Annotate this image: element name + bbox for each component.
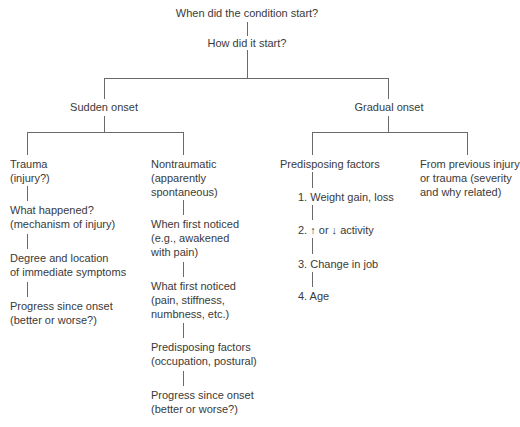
onset-question: How did it start? bbox=[208, 36, 287, 50]
step-text: of immediate symptoms bbox=[10, 266, 126, 278]
trauma-label: Trauma bbox=[10, 158, 48, 170]
step-text: (mechanism of injury) bbox=[10, 218, 115, 230]
nontraumatic-sublabel: spontaneous) bbox=[151, 186, 218, 198]
step-text: or trauma (severity bbox=[420, 172, 512, 184]
step-text: Predisposing factors bbox=[151, 341, 251, 353]
step-text: What happened? bbox=[10, 204, 94, 216]
root-question: When did the condition start? bbox=[176, 6, 318, 20]
nontraumatic-step-progress: Progress since onset (better or worse?) bbox=[151, 388, 254, 416]
step-text: From previous injury bbox=[420, 158, 520, 170]
step-text: Progress since onset bbox=[151, 389, 254, 401]
predisposing-item-job: 3. Change in job bbox=[298, 257, 378, 271]
predisposing-factors-node: Predisposing factors bbox=[280, 157, 380, 171]
step-text: (better or worse?) bbox=[151, 403, 238, 415]
step-text: with pain) bbox=[151, 246, 198, 258]
step-text: numbness, etc.) bbox=[151, 308, 229, 320]
step-text: Progress since onset bbox=[10, 300, 113, 312]
nontraumatic-sublabel: (apparently bbox=[151, 172, 206, 184]
predisposing-item-weight: 1. Weight gain, loss bbox=[298, 190, 394, 204]
gradual-onset-node: Gradual onset bbox=[354, 100, 423, 114]
step-text: (e.g., awakened bbox=[151, 232, 229, 244]
step-text: What first noticed bbox=[151, 280, 236, 292]
previous-injury-node: From previous injury or trauma (severity… bbox=[420, 157, 520, 199]
step-text: Degree and location bbox=[10, 252, 108, 264]
trauma-node: Trauma (injury?) bbox=[10, 157, 50, 185]
predisposing-item-age: 4. Age bbox=[298, 289, 329, 303]
nontraumatic-step-what-noticed: What first noticed (pain, stiffness, num… bbox=[151, 279, 236, 321]
trauma-step-degree-location: Degree and location of immediate symptom… bbox=[10, 251, 126, 279]
step-text: and why related) bbox=[420, 186, 501, 198]
sudden-onset-node: Sudden onset bbox=[70, 100, 138, 114]
step-text: (pain, stiffness, bbox=[151, 294, 225, 306]
flowchart: When did the condition start? How did it… bbox=[0, 0, 520, 427]
nontraumatic-label: Nontraumatic bbox=[151, 158, 216, 170]
trauma-step-what-happened: What happened? (mechanism of injury) bbox=[10, 203, 115, 231]
predisposing-item-activity: 2. ↑ or ↓ activity bbox=[298, 223, 374, 237]
step-text: (occupation, postural) bbox=[151, 355, 257, 367]
trauma-sublabel: (injury?) bbox=[10, 172, 50, 184]
step-text: (better or worse?) bbox=[10, 314, 97, 326]
nontraumatic-step-when-noticed: When first noticed (e.g., awakened with … bbox=[151, 217, 239, 259]
nontraumatic-step-predisposing: Predisposing factors (occupation, postur… bbox=[151, 340, 257, 368]
nontraumatic-node: Nontraumatic (apparently spontaneous) bbox=[151, 157, 218, 199]
trauma-step-progress: Progress since onset (better or worse?) bbox=[10, 299, 113, 327]
step-text: When first noticed bbox=[151, 218, 239, 230]
